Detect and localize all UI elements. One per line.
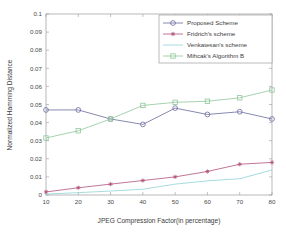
series-line-2 bbox=[46, 170, 272, 194]
y-tick-label: 0.05 bbox=[30, 101, 43, 108]
y-tick-label: 0.08 bbox=[30, 46, 43, 53]
legend-label-2: Venkatesan's scheme bbox=[187, 41, 248, 48]
chart-legend: Proposed SchemeFridrich's schemeVenkates… bbox=[159, 15, 272, 63]
chart-plot-area: 00.010.020.030.040.050.060.070.080.090.1… bbox=[0, 0, 286, 236]
y-axis-title: Normalized Hamming Distance bbox=[6, 59, 14, 150]
x-tick-label: 50 bbox=[172, 198, 179, 205]
y-tick-label: 0.09 bbox=[30, 28, 43, 35]
series-0 bbox=[44, 106, 275, 127]
y-axis-tick-labels: 00.010.020.030.040.050.060.070.080.090.1 bbox=[30, 10, 43, 198]
x-tick-label: 70 bbox=[236, 198, 243, 205]
x-axis-title: JPEG Compression Factor(in percentage) bbox=[98, 217, 221, 225]
x-tick-label: 80 bbox=[269, 198, 276, 205]
x-tick-label: 30 bbox=[107, 198, 114, 205]
y-tick-label: 0.07 bbox=[30, 65, 43, 72]
y-tick-label: 0.01 bbox=[30, 173, 43, 180]
series-line-0 bbox=[46, 108, 272, 124]
x-tick-label: 60 bbox=[204, 198, 211, 205]
y-tick-label: 0.02 bbox=[30, 155, 43, 162]
x-axis-tick-labels: 1020304050607080 bbox=[43, 198, 276, 205]
series-1 bbox=[44, 160, 274, 194]
x-tick-label: 20 bbox=[75, 198, 82, 205]
y-tick-label: 0.03 bbox=[30, 137, 43, 144]
series-2 bbox=[46, 170, 272, 194]
y-tick-label: 0.06 bbox=[30, 83, 43, 90]
data-series-group bbox=[44, 88, 275, 194]
x-tick-label: 10 bbox=[43, 198, 50, 205]
legend-label-0: Proposed Scheme bbox=[187, 19, 238, 26]
y-tick-label: 0.1 bbox=[33, 10, 42, 17]
chart-figure: 00.010.020.030.040.050.060.070.080.090.1… bbox=[0, 0, 286, 236]
x-tick-label: 40 bbox=[139, 198, 146, 205]
legend-label-3: Mihcak's Algorithm B bbox=[187, 52, 244, 59]
legend-label-1: Fridrich's scheme bbox=[187, 30, 236, 37]
y-tick-label: 0.04 bbox=[30, 119, 43, 126]
